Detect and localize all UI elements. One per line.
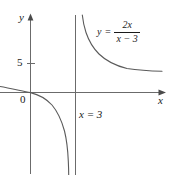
x-axis-label: x bbox=[158, 95, 163, 106]
equation-lhs: y bbox=[97, 27, 101, 37]
asymptote-label: x = 3 bbox=[79, 109, 102, 120]
equation-denominator: x − 3 bbox=[115, 34, 140, 45]
equation-label: y = 2x x − 3 bbox=[97, 20, 140, 44]
equation-numerator: 2x bbox=[120, 20, 133, 31]
origin-label: 0 bbox=[20, 94, 26, 105]
graph-figure: y x 5 0 x = 3 y = 2x x − 3 bbox=[0, 0, 173, 175]
equation-row: y = 2x x − 3 bbox=[97, 20, 140, 44]
graph-canvas bbox=[0, 0, 173, 175]
y-axis bbox=[28, 14, 34, 175]
y-tick-label-5: 5 bbox=[17, 57, 23, 68]
equation-equals: = bbox=[104, 27, 111, 37]
equation-fraction: 2x x − 3 bbox=[114, 20, 140, 44]
curve-left-branch bbox=[0, 87, 69, 176]
y-axis-label: y bbox=[19, 12, 24, 23]
